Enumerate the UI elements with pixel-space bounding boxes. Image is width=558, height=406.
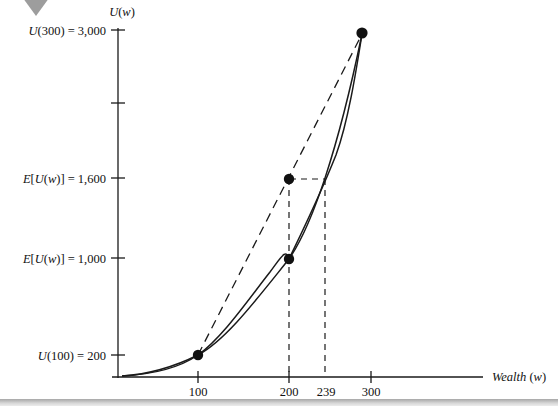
x-label-300: 300 <box>362 385 381 399</box>
guide-line-group <box>289 179 326 376</box>
point-u-at-300 <box>356 27 367 38</box>
expected-utility-chord <box>198 34 362 355</box>
point-expected-utility-at-200 <box>284 174 294 184</box>
axis-group <box>112 28 483 378</box>
utility-curve <box>122 34 362 376</box>
point-u-at-200 <box>284 254 294 264</box>
x-label-239: 239 <box>317 385 336 399</box>
utility-function-figure: U(w) Wealth (w) U(300) = 3,000 E[U(w)] =… <box>0 0 558 406</box>
point-u-at-100 <box>193 350 203 360</box>
x-label-200: 200 <box>280 385 299 399</box>
x-label-100: 100 <box>189 385 208 399</box>
y-axis-title: U(w) <box>109 5 135 19</box>
y-label-u300: U(300) = 3,000 <box>28 24 106 38</box>
x-axis-title: Wealth (w) <box>492 370 546 384</box>
page-bottom-rule <box>0 399 558 406</box>
y-label-expected-utility-1600: E[U(w)] = 1,600 <box>22 172 106 186</box>
utility-curve-main <box>122 34 362 376</box>
chart-canvas: U(w) Wealth (w) U(300) = 3,000 E[U(w)] =… <box>0 0 558 406</box>
y-label-expected-utility-1000: E[U(w)] = 1,000 <box>22 252 106 266</box>
y-label-u100: U(100) = 200 <box>38 349 106 363</box>
